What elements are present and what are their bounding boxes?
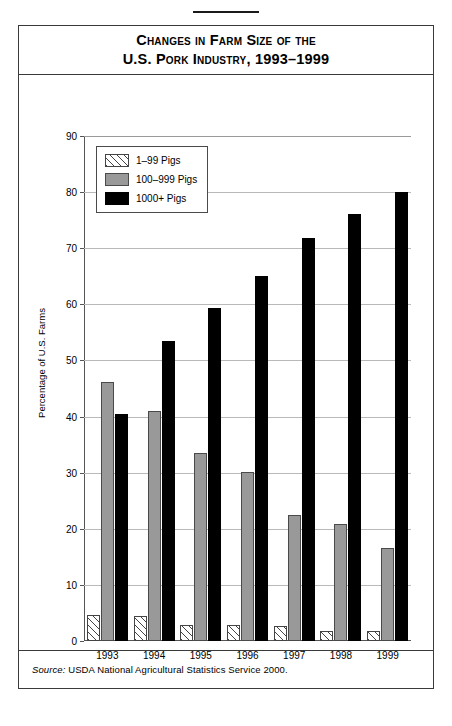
y-axis-tick-label: 60 [66, 299, 77, 310]
y-axis-tick-label: 10 [66, 579, 77, 590]
title-line-2: U.S. Pork Industry, 1993–1999 [123, 50, 330, 69]
bar-group [364, 136, 411, 641]
bar [255, 276, 268, 641]
y-axis-title: Percentage of U.S. Farms [36, 263, 47, 463]
y-axis-tick [80, 641, 84, 642]
legend-item: 1000+ Pigs [105, 192, 197, 205]
legend-swatch-icon [105, 173, 129, 186]
y-axis-tick-label: 30 [66, 467, 77, 478]
bar [87, 615, 100, 641]
bar [162, 341, 175, 641]
bar [134, 616, 147, 641]
bar [395, 192, 408, 641]
y-axis-tick-label: 50 [66, 355, 77, 366]
y-axis-tick-label: 70 [66, 243, 77, 254]
bar [148, 411, 161, 641]
y-axis-tick-label: 0 [71, 636, 77, 647]
bar [208, 308, 221, 641]
title-line-1: Changes in Farm Size of the [123, 31, 330, 50]
bar [381, 548, 394, 641]
bar [227, 625, 240, 641]
figure-page: Changes in Farm Size of the U.S. Pork In… [0, 0, 452, 726]
source-note: Source: USDA National Agricultural Stati… [19, 664, 288, 675]
bar [194, 453, 207, 641]
bar [302, 238, 315, 641]
bar [334, 524, 347, 641]
legend-label: 1000+ Pigs [136, 193, 186, 204]
legend-swatch-icon [105, 192, 129, 205]
bar [274, 626, 287, 641]
bar [348, 214, 361, 641]
y-axis-tick-label: 20 [66, 523, 77, 534]
legend-item: 1–99 Pigs [105, 154, 197, 167]
figure-frame: Changes in Farm Size of the U.S. Pork In… [18, 25, 434, 689]
bar [241, 472, 254, 641]
legend-label: 100–999 Pigs [136, 174, 197, 185]
bar [320, 631, 333, 641]
bar-group [271, 136, 318, 641]
page-title: Changes in Farm Size of the U.S. Pork In… [123, 31, 330, 69]
bar [288, 515, 301, 641]
bar-group [318, 136, 365, 641]
source-label: Source: [32, 664, 65, 675]
figure-title-band: Changes in Farm Size of the U.S. Pork In… [19, 26, 433, 75]
figure-source-band: Source: USDA National Agricultural Stati… [19, 650, 433, 688]
bar [367, 631, 380, 641]
chart-legend: 1–99 Pigs100–999 Pigs1000+ Pigs [96, 146, 208, 213]
bar [115, 414, 128, 641]
legend-swatch-icon [105, 154, 129, 167]
top-divider-rule [193, 11, 259, 13]
bar [180, 625, 193, 641]
legend-item: 100–999 Pigs [105, 173, 197, 186]
bar-group [224, 136, 271, 641]
source-value: USDA National Agricultural Statistics Se… [65, 664, 287, 675]
plot-region: Percentage of U.S. Farms 010203040506070… [19, 75, 433, 650]
chart-axes: 0102030405060708090 19931994199519961997… [84, 136, 411, 641]
y-axis-tick-label: 90 [66, 131, 77, 142]
y-axis-tick-label: 80 [66, 187, 77, 198]
legend-label: 1–99 Pigs [136, 155, 180, 166]
y-axis-tick-label: 40 [66, 411, 77, 422]
bar [101, 382, 114, 641]
